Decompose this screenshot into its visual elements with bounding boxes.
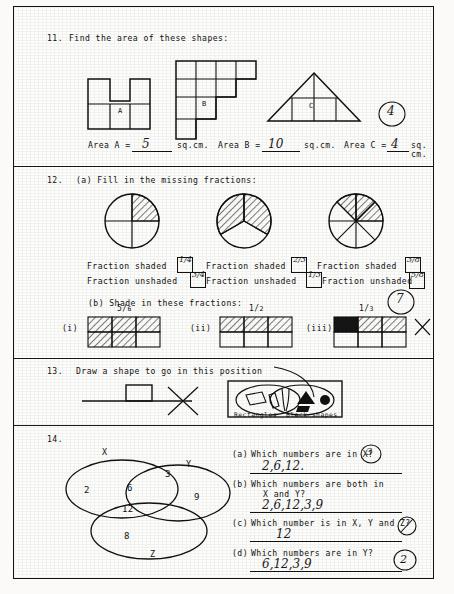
q13-venn-label-right: Black shapes <box>286 411 338 419</box>
q11-area-b-underline <box>262 151 300 152</box>
q14-mark-d: 2 <box>400 553 407 566</box>
q11-area-a-unit: sq.cm. <box>177 140 209 150</box>
fraction-shaded-answer-3: 3/8 <box>407 256 420 263</box>
fraction-unshaded-answer-2: 1/3 <box>308 271 321 278</box>
q12-prompt-b: (b) Shade in these fractions: <box>88 298 242 308</box>
fraction-shaded-answer-1: 1/4 <box>179 256 192 263</box>
frac-den-3: 3 <box>370 305 374 313</box>
q13-answer-sketch[interactable] <box>72 375 232 415</box>
shade-grid-2[interactable] <box>220 317 298 351</box>
q11-area-a-underline <box>132 151 172 152</box>
q11-area-c-unit2: cm. <box>411 149 427 159</box>
shade-item-fraction-1: 5/6 <box>117 304 132 313</box>
q14-answer-d: 6,12,3,9 <box>262 557 312 571</box>
q14-question-c: Which number is in X, Y and Z? <box>251 518 411 528</box>
shade-grid-3[interactable] <box>334 317 412 351</box>
q14-tick-c <box>396 515 420 537</box>
q14-answer-underline-b <box>250 512 402 513</box>
q11-area-c-value: 4 <box>391 137 399 151</box>
shape-b-label: B <box>202 100 207 108</box>
q12-cross-mark-3 <box>412 315 434 339</box>
pie-chart-thirds <box>214 191 276 253</box>
fraction-unshaded-label-3: Fraction unshaded <box>322 276 413 286</box>
q14-answer-c: 12 <box>276 527 291 541</box>
q14-set-label-x: X <box>102 447 108 457</box>
q11-area-a-value: 5 <box>142 137 150 151</box>
q13-pointer-arrow <box>272 365 330 401</box>
q11-area-a-label: Area A = <box>88 140 131 150</box>
shade-item-marker-2: (ii) <box>190 323 211 333</box>
divider-after-q13 <box>14 425 433 426</box>
q11-prompt: Find the area of these shapes: <box>69 33 229 43</box>
q14-answer-a: 2,6,12. <box>262 459 304 473</box>
fraction-unshaded-answer-1: 3/4 <box>192 271 205 278</box>
q14-set-label-y: Y <box>186 459 192 469</box>
divider-after-q12 <box>14 358 433 359</box>
q14-marker-d: (d) <box>232 548 248 558</box>
shape-a-label: A <box>118 107 123 115</box>
frac-num-1: 5 <box>117 304 122 313</box>
frac-den-2: 2 <box>260 305 264 313</box>
q14-marker-b: (b) <box>232 479 248 489</box>
frac-num-3: 1 <box>359 304 364 313</box>
fraction-unshaded-answer-3: 5/8 <box>411 271 424 278</box>
q11-number: 11. <box>47 33 63 43</box>
q12-prompt-a: (a) Fill in the missing fractions: <box>76 175 257 185</box>
q14-set-label-z: Z <box>150 549 156 559</box>
q14-value-x-y: 6 <box>127 483 133 493</box>
shape-c-figure <box>266 71 366 129</box>
fraction-shaded-label-1: Fraction shaded <box>87 261 167 271</box>
q12-number: 12. <box>47 175 63 185</box>
q11-area-b-label: Area B = <box>218 140 261 150</box>
q14-answer-underline-a <box>250 473 402 474</box>
q14-answer-underline-c <box>250 541 402 542</box>
fraction-shaded-answer-2: 2/3 <box>293 256 306 263</box>
shade-grid-1[interactable] <box>88 317 166 351</box>
shade-item-fraction-3: 1/3 <box>359 304 374 313</box>
fraction-shaded-label-2: Fraction shaded <box>206 261 286 271</box>
pie-chart-eighths <box>326 191 388 253</box>
shape-b-figure <box>172 57 272 145</box>
frac-num-2: 1 <box>249 304 254 313</box>
q11-teacher-mark: 4 <box>387 104 395 118</box>
q12-teacher-mark: 7 <box>396 292 404 306</box>
q14-mark-a: 3 <box>366 446 372 457</box>
q14-value-x-only: 2 <box>84 485 90 495</box>
q14-value-z-only: 8 <box>124 531 130 541</box>
shade-item-fraction-2: 1/2 <box>249 304 264 313</box>
q14-question-a: Which numbers are in X? <box>251 449 373 459</box>
q14-marker-c: (c) <box>232 518 248 528</box>
fraction-unshaded-label-1: Fraction unshaded <box>87 276 178 286</box>
q13-number: 13. <box>47 366 63 376</box>
shape-c-label: C <box>309 102 314 110</box>
shade-item-marker-1: (i) <box>62 323 78 333</box>
q14-question-b: Which numbers are both in <box>251 479 384 489</box>
q14-answer-b: 2,6,12,3,9 <box>262 498 323 512</box>
shape-a-figure <box>86 71 152 133</box>
q14-answer-underline-d <box>250 571 402 572</box>
fraction-unshaded-label-2: Fraction unshaded <box>206 276 297 286</box>
divider-after-q11 <box>14 166 433 167</box>
pie-chart-quarters <box>102 191 164 253</box>
q13-venn-label-left: Rectangles <box>234 411 277 419</box>
q11-area-c-underline <box>387 151 409 152</box>
q14-value-y-right: 9 <box>194 492 200 502</box>
q11-area-c-label: Area C = <box>344 140 387 150</box>
worksheet-page: 11. Find the area of these shapes: A B C… <box>13 6 434 579</box>
q14-value-centre: 12 <box>122 504 134 514</box>
shade-item-marker-3: (iii) <box>306 323 333 333</box>
frac-den-1: 6 <box>128 305 132 313</box>
q14-marker-a: (a) <box>232 449 248 459</box>
q11-area-b-unit: sq.cm. <box>304 140 336 150</box>
q14-value-y-only: 3 <box>165 469 171 479</box>
q11-area-b-value: 10 <box>268 137 283 151</box>
fraction-shaded-label-3: Fraction shaded <box>317 261 397 271</box>
